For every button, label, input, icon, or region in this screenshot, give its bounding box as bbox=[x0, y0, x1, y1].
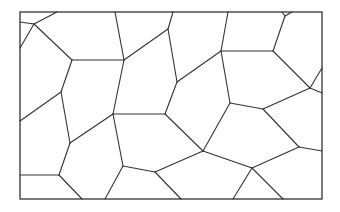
cell-edge bbox=[70, 114, 113, 143]
cell-edge bbox=[168, 29, 177, 82]
cell-edge bbox=[113, 114, 123, 166]
cell-edge bbox=[230, 103, 263, 109]
cell-edge bbox=[165, 82, 177, 114]
cell-edge bbox=[221, 12, 228, 51]
cell-edge bbox=[34, 24, 72, 60]
cell-edge bbox=[105, 166, 123, 199]
cell-edge bbox=[34, 12, 57, 24]
cell-edge bbox=[115, 12, 124, 60]
cell-edge bbox=[61, 60, 72, 92]
cell-edge bbox=[168, 12, 173, 29]
cell-edge bbox=[233, 168, 252, 199]
cell-edge bbox=[273, 16, 285, 51]
cell-edge bbox=[203, 151, 252, 168]
cell-edge bbox=[155, 172, 181, 199]
cell-edge bbox=[221, 51, 230, 103]
cell-edge bbox=[177, 51, 221, 82]
cell-edge bbox=[124, 29, 168, 60]
cell-edge bbox=[263, 88, 310, 109]
cell-edge bbox=[123, 166, 155, 172]
cell-edge bbox=[59, 175, 82, 199]
cell-edges bbox=[20, 12, 322, 199]
cell-edge bbox=[165, 114, 203, 151]
cell-edge bbox=[299, 147, 322, 151]
cell-edge bbox=[203, 103, 230, 151]
cell-edge bbox=[155, 151, 203, 172]
cell-edge bbox=[113, 60, 124, 114]
cell-edge bbox=[61, 92, 70, 143]
cell-edge bbox=[252, 168, 283, 199]
cell-edge bbox=[20, 22, 34, 24]
cell-edge bbox=[310, 68, 322, 88]
cell-edge bbox=[20, 24, 34, 48]
cell-edge bbox=[273, 51, 310, 88]
cell-edge bbox=[263, 109, 299, 147]
voronoi-diagram bbox=[0, 0, 340, 212]
cell-edge bbox=[252, 147, 299, 168]
cell-edge bbox=[20, 92, 61, 121]
cell-edge bbox=[310, 88, 322, 93]
cell-edge bbox=[59, 143, 70, 175]
